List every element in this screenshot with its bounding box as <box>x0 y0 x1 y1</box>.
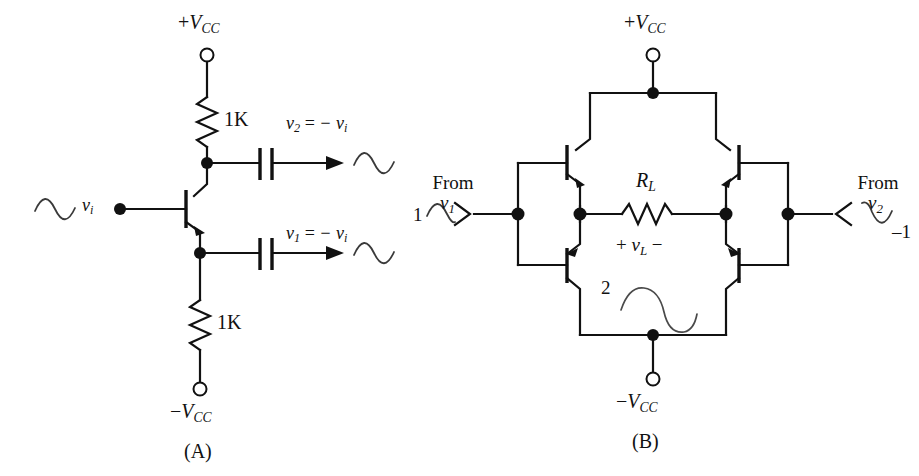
junction-dot-b-right-output <box>720 208 733 221</box>
b-supply-top-symbol: V <box>635 11 647 33</box>
source-left-subscript: 1 <box>448 201 454 216</box>
resistor-top-icon <box>197 97 217 147</box>
input-symbol: v <box>82 195 90 215</box>
junction-dot-input <box>114 203 126 215</box>
load-voltage-symbol: v <box>631 234 639 255</box>
sine-wave-icon-output-bottom <box>354 243 394 263</box>
b-supply-bottom-symbol: V <box>627 390 639 412</box>
supply-bottom-subscript: CC <box>194 410 212 425</box>
junction-dot-emitter <box>194 247 206 259</box>
source-left-amplitude-label: 1 <box>413 205 423 224</box>
output-bottom-symbol: v <box>286 223 294 243</box>
supply-top-subscript: CC <box>202 21 220 36</box>
wire-b-tl-collector <box>576 93 590 150</box>
input-subscript: i <box>90 203 93 217</box>
arrow-right-icon-output-bottom <box>326 246 344 260</box>
source-right-from-label: From <box>848 173 908 192</box>
b-supply-bottom-sign: − <box>616 390 627 412</box>
junction-dot-collector <box>201 157 213 169</box>
output-top-equals: = <box>305 113 315 133</box>
panel-a-input-label: vi <box>82 196 93 214</box>
b-supply-bottom-subscript: CC <box>640 400 658 415</box>
source-left-from-label: From <box>423 173 483 192</box>
arrow-right-connector-icon <box>455 203 470 225</box>
sine-wave-icon-input <box>35 199 75 219</box>
schematic-drawing <box>0 0 919 476</box>
panel-a-supply-bottom-label: −VCC <box>170 401 212 421</box>
wire-b-br-collector <box>726 278 739 335</box>
load-voltage-plus: + <box>616 234 627 255</box>
panel-b-supply-bottom-label: −VCC <box>616 391 658 411</box>
load-voltage-label: + vL − <box>616 235 663 254</box>
open-terminal-icon-b-bottom <box>647 373 660 386</box>
b-supply-top-subscript: CC <box>648 21 666 36</box>
output-bottom-subscript: 1 <box>294 231 300 245</box>
junction-dot-b-right-input <box>782 208 795 221</box>
arrow-right-icon-output-top <box>326 156 344 170</box>
load-resistor-subscript: L <box>648 179 656 194</box>
panel-a-output-top-label: v2 = − vi <box>286 114 347 132</box>
wire-b-tr-collector <box>716 93 730 150</box>
emitter-arrow-icon-tl <box>575 178 585 188</box>
panel-a-caption: (A) <box>184 441 212 461</box>
source-right-amplitude-label: –1 <box>892 222 911 241</box>
open-terminal-icon-b-top <box>647 49 660 62</box>
panel-a-supply-top-label: +VCC <box>178 12 220 32</box>
output-bottom-equals: = <box>305 223 315 243</box>
load-resistor-label: RL <box>636 170 656 190</box>
supply-bottom-sign: − <box>170 400 181 422</box>
output-top-expr-sub: i <box>344 121 347 135</box>
supply-top-symbol: V <box>189 11 201 33</box>
wire-collector-lead <box>194 169 207 196</box>
output-top-symbol: v <box>286 113 294 133</box>
arrow-left-connector-icon <box>836 203 851 225</box>
panel-b-caption: (B) <box>632 431 659 451</box>
junction-dot-b-left-output <box>574 208 587 221</box>
output-bottom-expr-sub: i <box>344 231 347 245</box>
junction-dot-b-bottom-rail <box>647 329 659 341</box>
load-waveform-amplitude-label: 2 <box>601 278 611 297</box>
supply-top-sign: + <box>178 11 189 33</box>
sine-wave-icon-output-top <box>354 153 394 173</box>
emitter-arrow-icon-tr <box>721 178 731 188</box>
junction-dot-b-left-input <box>512 208 525 221</box>
load-voltage-subscript: L <box>640 243 647 258</box>
output-bottom-expr: − v <box>319 223 344 243</box>
load-resistor-symbol: R <box>636 169 648 191</box>
supply-bottom-symbol: V <box>181 400 193 422</box>
open-terminal-icon-bottom <box>194 383 207 396</box>
load-resistor-icon <box>622 204 672 224</box>
source-right-subscript: 2 <box>876 201 882 216</box>
output-top-subscript: 2 <box>294 121 300 135</box>
circuit-figure: +VCC 1K 1K −VCC (A) vi v2 = − vi v1 = − … <box>0 0 919 476</box>
resistor-bottom-icon <box>190 300 210 350</box>
b-supply-top-sign: + <box>624 11 635 33</box>
wire-b-bl-collector <box>567 278 580 335</box>
open-terminal-icon <box>201 49 214 62</box>
source-left-symbol-label: v1 <box>440 193 455 212</box>
panel-b-supply-top-label: +VCC <box>624 12 666 32</box>
sine-wave-large-icon-load <box>621 288 697 332</box>
load-voltage-minus: − <box>652 234 663 255</box>
panel-b-schematic <box>427 49 892 386</box>
output-top-expr: − v <box>319 113 344 133</box>
panel-a-resistor-top-label: 1K <box>224 109 248 129</box>
source-right-symbol-label: v2 <box>868 193 883 212</box>
panel-a-resistor-bottom-label: 1K <box>217 312 241 332</box>
emitter-arrow-icon <box>194 226 205 236</box>
panel-a-schematic <box>35 49 394 396</box>
panel-a-output-bottom-label: v1 = − vi <box>286 224 347 242</box>
